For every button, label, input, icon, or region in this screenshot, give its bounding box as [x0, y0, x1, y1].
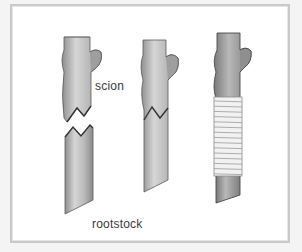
joined-graft-stem	[141, 40, 178, 192]
rootstock-label: rootstock	[92, 217, 143, 231]
graft-wrapping	[214, 97, 242, 176]
bud-icon	[90, 50, 101, 72]
scion-label: scion	[95, 79, 124, 93]
rootstock-stem-separated	[65, 125, 93, 214]
graft-illustration	[0, 0, 302, 252]
